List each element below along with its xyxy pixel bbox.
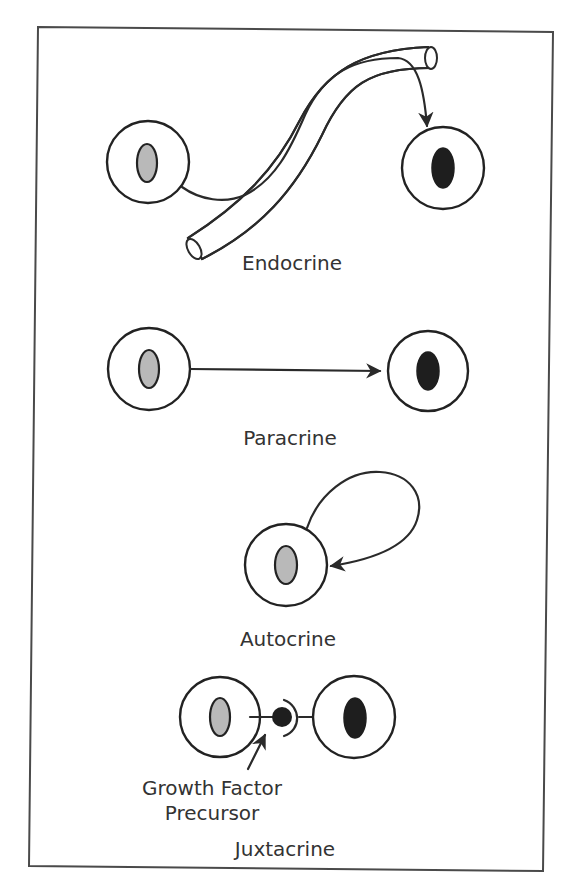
nucleus-light [137, 144, 157, 182]
nucleus-dark [344, 698, 366, 738]
autocrine-label: Autocrine [240, 627, 336, 651]
nucleus-dark [417, 352, 439, 390]
endocrine-label: Endocrine [242, 251, 342, 275]
target-cell [402, 127, 484, 209]
secreting-cell [108, 328, 190, 410]
growth-factor-label: Growth Factor [142, 776, 283, 800]
signaling-diagram: Endocrine Paracrine Autocrine [0, 0, 570, 896]
precursor-label: Precursor [165, 801, 260, 825]
secreting-cell [107, 121, 189, 203]
growth-factor-dot-icon [272, 707, 292, 727]
paracrine-label: Paracrine [243, 426, 337, 450]
nucleus-light [275, 546, 297, 584]
target-cell [388, 331, 468, 411]
target-cell [313, 676, 395, 758]
autocrine-cell [245, 524, 327, 606]
juxtacrine-label: Juxtacrine [233, 837, 335, 861]
nucleus-light [210, 698, 230, 736]
nucleus-dark [432, 148, 454, 188]
nucleus-light [139, 350, 159, 388]
secreting-cell [180, 677, 260, 757]
